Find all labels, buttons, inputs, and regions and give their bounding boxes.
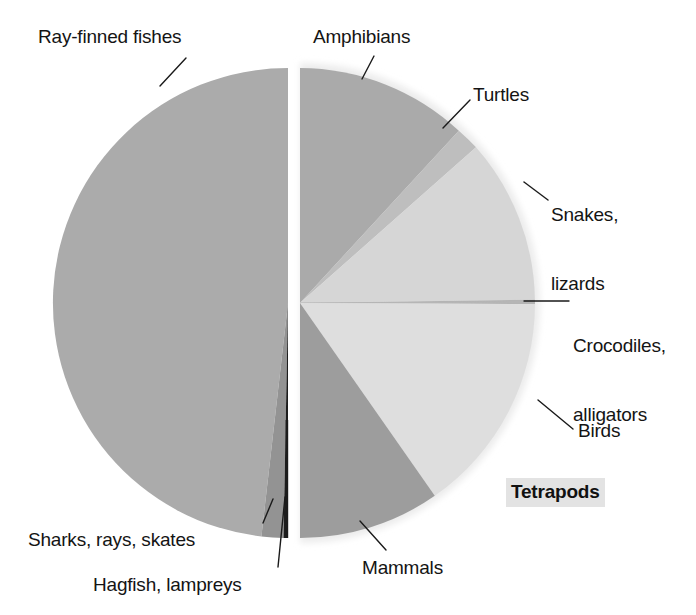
leader-line-ray-finned-fishes — [160, 58, 186, 86]
leader-line-snakes-lizards — [524, 182, 548, 200]
label-turtles: Turtles — [473, 83, 529, 106]
group-badge-tetrapods: Tetrapods — [506, 478, 605, 507]
label-snakes-lizards-line1: Snakes, — [551, 203, 618, 226]
slice-ray-finned-fishes — [53, 68, 288, 537]
label-crocodiles-alligators: Crocodiles, alligators — [573, 288, 666, 472]
label-hagfish-lampreys: Hagfish, lampreys — [93, 573, 242, 596]
label-birds: Birds — [578, 419, 620, 442]
label-ray-finned-fishes: Ray-finned fishes — [38, 25, 181, 48]
leader-line-birds — [538, 400, 573, 429]
label-amphibians: Amphibians — [313, 25, 410, 48]
tetrapods-half — [300, 68, 535, 538]
fishes-half — [53, 68, 288, 538]
label-sharks-rays-skates: Sharks, rays, skates — [28, 528, 195, 551]
slice-hagfish-lampreys-stroke — [286, 420, 289, 538]
label-mammals: Mammals — [362, 556, 443, 579]
label-crocodiles-line1: Crocodiles, — [573, 334, 666, 357]
pie-chart-figure: Ray-finned fishes Amphibians Turtles Sna… — [0, 0, 696, 615]
